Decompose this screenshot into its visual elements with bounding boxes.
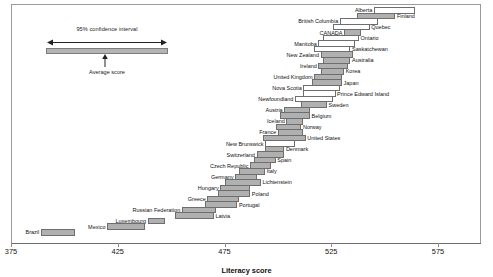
x-axis-tick-label: 525 — [325, 247, 337, 256]
category-label: Brazil — [26, 228, 40, 236]
x-axis-tick-label: 425 — [112, 247, 124, 256]
literacy-score-chart: 95% confidence interval Average score Al… — [0, 0, 493, 277]
data-row: Brazil — [0, 228, 493, 237]
x-axis-title: Literacy score — [0, 266, 493, 275]
x-axis-tick-label: 375 — [5, 247, 17, 256]
x-axis-tick-label: 475 — [218, 247, 230, 256]
confidence-interval-bar — [41, 229, 75, 236]
x-axis-line — [11, 243, 481, 244]
x-axis-tick-label: 575 — [432, 247, 444, 256]
